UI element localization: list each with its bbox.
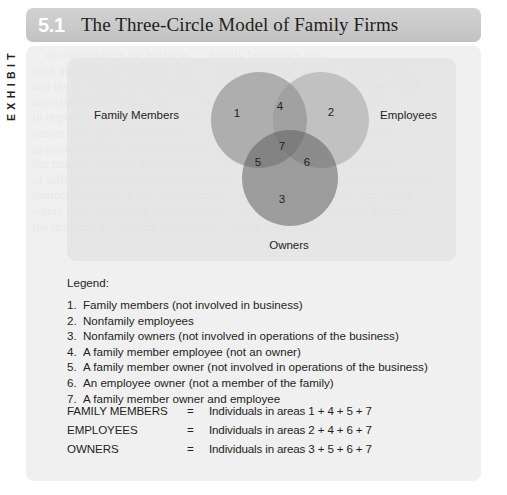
legend-item-number: 1. — [67, 297, 83, 313]
summary-row-equals: = — [187, 439, 209, 458]
legend-item: 5. A family member owner (not involved i… — [67, 359, 467, 375]
summary-row-label: FAMILY MEMBERS — [67, 401, 187, 420]
exhibit-header-bar: 5.1 The Three-Circle Model of Family Fir… — [26, 8, 481, 42]
legend-item-number: 3. — [67, 328, 83, 344]
venn-label-family-members: Family Members — [94, 109, 179, 121]
summary-row: EMPLOYEES = Individuals in areas 2 + 4 +… — [67, 420, 467, 439]
venn-region-1: 1 — [230, 107, 244, 119]
summary-row-label: OWNERS — [67, 439, 187, 458]
legend-item-number: 2. — [67, 313, 83, 329]
exhibit-number: 5.1 — [38, 14, 65, 37]
summary-row-value: Individuals in areas 2 + 4 + 6 + 7 — [209, 420, 467, 439]
venn-region-2: 2 — [324, 106, 338, 118]
summary-row-value: Individuals in areas 1 + 4 + 5 + 7 — [209, 401, 467, 420]
venn-region-3: 3 — [275, 193, 289, 205]
legend-item: 1. Family members (not involved in busin… — [67, 297, 467, 313]
legend-item-text: Nonfamily owners (not involved in operat… — [83, 328, 467, 344]
summary-row-equals: = — [187, 401, 209, 420]
legend-heading: Legend: — [67, 276, 467, 289]
summary-row: FAMILY MEMBERS = Individuals in areas 1 … — [67, 401, 467, 420]
legend-item: 2. Nonfamily employees — [67, 313, 467, 329]
venn-label-employees: Employees — [380, 109, 437, 121]
summary-row: OWNERS = Individuals in areas 3 + 5 + 6 … — [67, 439, 467, 458]
venn-label-owners: Owners — [253, 239, 325, 251]
summary-row-value: Individuals in areas 3 + 5 + 6 + 7 — [209, 439, 467, 458]
legend-item-text: A family member employee (not an owner) — [83, 344, 467, 360]
legend-item-number: 4. — [67, 344, 83, 360]
venn-region-7: 7 — [275, 140, 289, 152]
venn-diagram: 1 2 3 4 5 6 7 Family Members Employees O… — [67, 58, 456, 261]
legend-item: 4. A family member employee (not an owne… — [67, 344, 467, 360]
summary-row-equals: = — [187, 420, 209, 439]
venn-region-4: 4 — [273, 100, 287, 112]
exhibit-tab: EXHIBIT — [0, 22, 22, 148]
legend-item-text: Family members (not involved in business… — [83, 297, 467, 313]
legend-item-text: An employee owner (not a member of the f… — [83, 375, 467, 391]
legend-item-number: 6. — [67, 375, 83, 391]
legend-item-text: Nonfamily employees — [83, 313, 467, 329]
legend-item-text: A family member owner (not involved in o… — [83, 359, 467, 375]
legend-item: 3. Nonfamily owners (not involved in ope… — [67, 328, 467, 344]
venn-circle-owners — [242, 130, 338, 226]
exhibit-body-panel: 1 2 3 4 5 6 7 Family Members Employees O… — [26, 46, 481, 481]
exhibit-tab-label: EXHIBIT — [5, 49, 17, 121]
legend-item-number: 5. — [67, 359, 83, 375]
venn-region-6: 6 — [300, 156, 314, 168]
summary-row-label: EMPLOYEES — [67, 420, 187, 439]
legend: Legend: 1. Family members (not involved … — [67, 276, 467, 406]
page-canvas: of ownership in the business. Family bus… — [0, 0, 507, 495]
legend-item: 6. An employee owner (not a member of th… — [67, 375, 467, 391]
exhibit-title: The Three-Circle Model of Family Firms — [81, 14, 398, 36]
summary-table: FAMILY MEMBERS = Individuals in areas 1 … — [67, 401, 467, 458]
venn-region-5: 5 — [251, 156, 265, 168]
